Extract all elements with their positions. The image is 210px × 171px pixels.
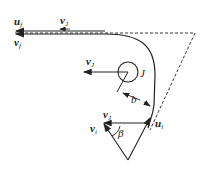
label-v-j-triangle: vJ bbox=[103, 108, 112, 122]
label-u-i: ui bbox=[155, 117, 163, 131]
label-beta: β bbox=[117, 127, 124, 139]
label-v-i: vi bbox=[90, 122, 97, 136]
label-v-f: vf bbox=[14, 36, 22, 50]
diagram-canvas: uf vJ vf vJ J b vJ vi β ui bbox=[0, 0, 210, 171]
label-u-f: uf bbox=[14, 15, 23, 29]
trajectory-curve bbox=[105, 34, 155, 128]
label-j: J bbox=[140, 67, 146, 79]
label-v-j-top: vJ bbox=[60, 14, 69, 28]
label-v-j-mid: vJ bbox=[86, 55, 95, 69]
velocity-triangle bbox=[104, 118, 150, 160]
label-b: b bbox=[131, 93, 137, 105]
